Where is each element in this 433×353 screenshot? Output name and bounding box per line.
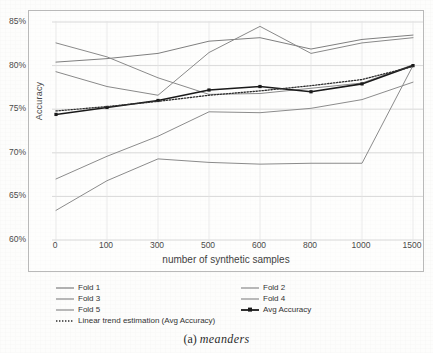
figure-caption-text: meanders [200, 332, 250, 346]
legend-swatch-icon [240, 294, 260, 303]
y-tick-label: 70% [0, 147, 26, 157]
legend-label: Fold 1 [78, 283, 100, 292]
series-marker-5 [309, 90, 312, 93]
legend-column-right: Fold 2Fold 4Avg Accuracy [240, 282, 311, 315]
legend-item: Fold 1 [55, 282, 215, 293]
x-tick-label: 600 [239, 240, 279, 250]
x-tick-label: 500 [188, 240, 228, 250]
y-tick-label: 85% [0, 16, 26, 26]
legend-label: Fold 4 [263, 294, 285, 303]
x-tick-label: 1500 [392, 240, 432, 250]
legend-label: Fold 5 [78, 305, 100, 314]
y-axis-title: Accuracy [34, 56, 44, 146]
y-tick-label: 60% [0, 234, 26, 244]
legend-item: Fold 3 [55, 293, 215, 304]
legend-label: Fold 3 [78, 294, 100, 303]
series-marker-5 [207, 88, 210, 91]
series-marker-5 [360, 82, 363, 85]
legend-item: Linear trend estimation (Avg Accuracy) [55, 315, 215, 326]
figure-caption-label: (a) [183, 332, 196, 346]
legend-swatch-icon [240, 283, 260, 292]
y-tick-label: 80% [0, 60, 26, 70]
x-tick-label: 300 [137, 240, 177, 250]
legend-swatch-icon [55, 283, 75, 292]
y-tick-label: 75% [0, 103, 26, 113]
series-line-5 [56, 66, 413, 115]
legend-swatch-icon [55, 294, 75, 303]
figure-caption: (a) meanders [0, 332, 433, 347]
legend-label: Fold 2 [263, 283, 285, 292]
legend-column-left: Fold 1Fold 3Fold 5Linear trend estimatio… [55, 282, 215, 326]
x-axis-title: number of synthetic samples [28, 254, 424, 265]
x-tick-label: 0 [35, 240, 75, 250]
legend-swatch-icon [240, 305, 260, 314]
legend-label: Linear trend estimation (Avg Accuracy) [78, 316, 215, 325]
legend-label: Avg Accuracy [263, 305, 311, 314]
legend-item: Fold 4 [240, 293, 311, 304]
line-chart-svg [29, 11, 425, 273]
legend-item: Fold 5 [55, 304, 215, 315]
x-tick-label: 1000 [341, 240, 381, 250]
legend-item: Avg Accuracy [240, 304, 311, 315]
chart-plot-frame [28, 10, 424, 272]
series-marker-5 [54, 113, 57, 116]
y-tick-label: 65% [0, 190, 26, 200]
series-line-3 [56, 82, 413, 179]
legend-item: Fold 2 [240, 282, 311, 293]
x-tick-label: 100 [86, 240, 126, 250]
series-marker-5 [258, 85, 261, 88]
legend-swatch-icon [55, 305, 75, 314]
legend-swatch-icon [55, 316, 75, 325]
figure-page: Accuracy number of synthetic samples 60%… [0, 0, 433, 353]
x-tick-label: 800 [290, 240, 330, 250]
